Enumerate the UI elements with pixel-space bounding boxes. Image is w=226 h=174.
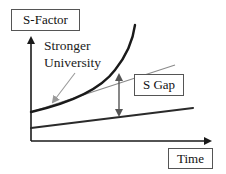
diagram-stage: S-Factor Time S Gap Stronger University bbox=[0, 0, 226, 174]
baseline-line bbox=[31, 108, 193, 128]
x-axis-label: Time bbox=[168, 148, 213, 169]
stronger-label: Stronger bbox=[44, 38, 91, 53]
pointer-arrow bbox=[53, 73, 75, 102]
university-label: University bbox=[44, 55, 101, 70]
s-gap-label: S Gap bbox=[134, 74, 184, 96]
y-axis-label: S-Factor bbox=[11, 9, 80, 31]
